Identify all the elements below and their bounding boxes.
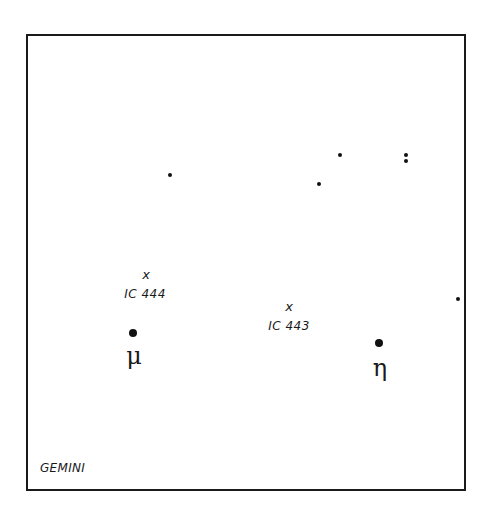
star-dot: [338, 153, 342, 157]
ic443-label: IC 443: [268, 320, 310, 333]
ic443-marker-icon: x: [285, 300, 293, 313]
star-dot: [404, 153, 408, 157]
star-dot: [168, 173, 172, 177]
star-mu: [129, 329, 137, 337]
star-dot: [317, 182, 321, 186]
star-eta: [375, 339, 383, 347]
star-dot: [456, 297, 460, 301]
constellation-label: GEMINI: [40, 461, 85, 475]
map-frame: [26, 34, 466, 491]
ic444-label: IC 444: [124, 288, 166, 301]
star-eta-label: η: [373, 356, 387, 380]
ic444-marker-icon: x: [142, 268, 150, 281]
star-dot: [404, 159, 408, 163]
star-mu-label: μ: [126, 344, 142, 368]
